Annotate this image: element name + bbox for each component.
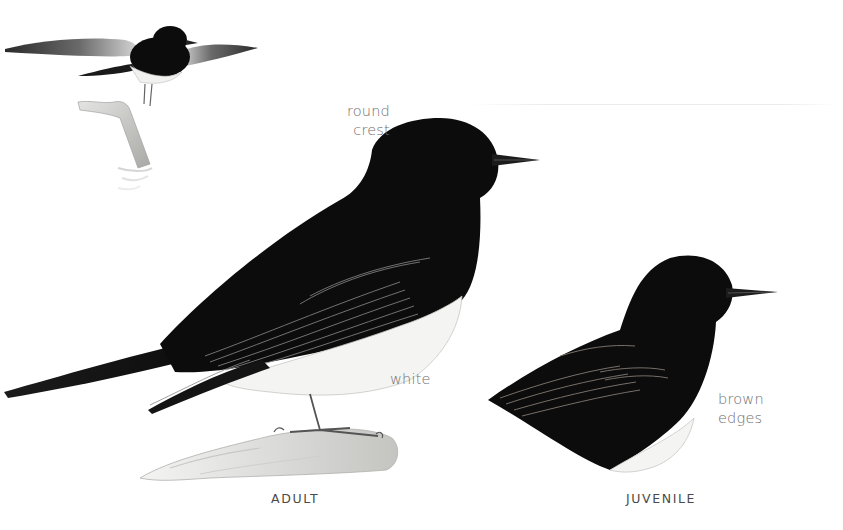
annotation-white-belly: white xyxy=(390,370,431,389)
annotation-round-crest: round crest xyxy=(344,102,390,140)
field-guide-plate: round crest white brown edges ADULT JUVE… xyxy=(0,0,843,530)
caption-juvenile: JUVENILE xyxy=(626,491,696,506)
annotation-brown-edges: brown edges xyxy=(718,390,764,428)
caption-adult: ADULT xyxy=(271,491,319,506)
juvenile-phoebe-illustration xyxy=(0,0,843,530)
